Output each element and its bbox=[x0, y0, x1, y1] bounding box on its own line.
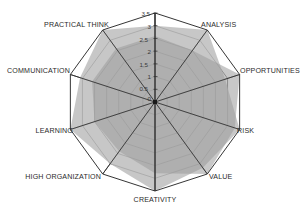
center-dot bbox=[153, 100, 157, 104]
category-label-communication: COMMUNICATION bbox=[7, 67, 70, 75]
radar-chart-container: 3.532.521.510.50 ANALYSISOPPORTUNITIESRI… bbox=[0, 0, 307, 212]
radial-tick-label-3.5: 3.5 bbox=[141, 10, 150, 17]
radar-center-marker bbox=[153, 100, 157, 104]
category-label-risk: RISK bbox=[237, 127, 254, 135]
radial-tick-label-2.5: 2.5 bbox=[139, 36, 148, 43]
radar-chart-svg: 3.532.521.510.50 ANALYSISOPPORTUNITIESRI… bbox=[0, 0, 307, 212]
category-label-learning: LEARNING bbox=[36, 127, 73, 135]
radial-tick-label-3: 3 bbox=[148, 23, 152, 30]
radial-tick-label-1: 1 bbox=[148, 73, 152, 80]
category-label-creativity: CREATIVITY bbox=[134, 196, 177, 204]
radial-tick-label-0.5: 0.5 bbox=[139, 85, 148, 92]
radial-tick-label-1.5: 1.5 bbox=[139, 61, 148, 68]
category-label-analysis: ANALYSIS bbox=[201, 21, 236, 29]
category-label-practical-think: PRACTICAL THINK bbox=[44, 21, 109, 29]
category-label-opportunities: OPPORTUNITIES bbox=[240, 67, 300, 75]
radial-tick-label-2: 2 bbox=[148, 48, 152, 55]
category-label-high-organization: HIGH ORGANIZATION bbox=[25, 173, 101, 181]
radial-tick-label-0: 0 bbox=[148, 95, 152, 102]
category-label-value: VALUE bbox=[209, 173, 233, 181]
